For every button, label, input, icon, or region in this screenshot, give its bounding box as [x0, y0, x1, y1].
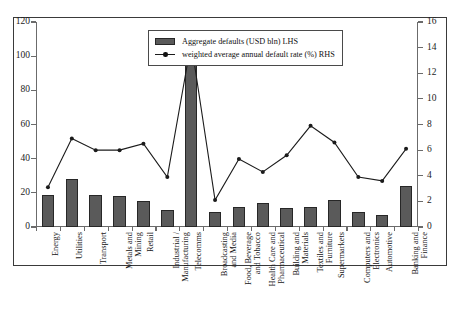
x-category-label: Supermarkets [337, 232, 346, 278]
line-marker [94, 148, 98, 152]
left-tick-label: 0 [6, 222, 30, 231]
x-category-label: Telecomms [194, 232, 203, 270]
x-category-label: Food, Beverageand Tobacco [244, 232, 262, 285]
right-tick [418, 201, 423, 202]
x-category-label: Retail [146, 232, 155, 252]
x-tick [418, 226, 419, 231]
right-tick [418, 175, 423, 176]
right-tick-label: 16 [427, 17, 437, 26]
right-tick [418, 150, 423, 151]
right-tick-label: 6 [427, 145, 432, 154]
legend-label-line: weighted average annual default rate (%)… [182, 50, 335, 59]
left-tick-label: 40 [6, 154, 30, 163]
line-marker [309, 124, 313, 128]
x-axis-category-labels: EnergyUtilitiesTransportMetals andMining… [36, 232, 418, 316]
line-marker [332, 140, 336, 144]
right-tick-label: 8 [427, 120, 432, 129]
x-category-label: Metals andMining [125, 232, 143, 269]
left-tick-label: 100 [6, 51, 30, 60]
x-category-label: Utilities [75, 232, 84, 259]
x-category-label: Broadcastingand Media [220, 232, 238, 276]
chart-figure: 020406080100120 0246810121416 EnergyUtil… [0, 0, 461, 318]
x-category-label: Energy [51, 232, 60, 256]
legend-item-line: weighted average annual default rate (%)… [155, 48, 335, 61]
x-category-label: Building andMaterials [292, 232, 310, 276]
line-marker [46, 185, 50, 189]
x-category-label: Automotive [385, 232, 394, 272]
x-category-label: Health Care andPharmaceutical [268, 232, 286, 286]
line-marker [380, 179, 384, 183]
right-tick [418, 98, 423, 99]
right-tick [418, 124, 423, 125]
line-marker [118, 148, 122, 152]
legend-label-bars: Aggregate defaults (USD bln) LHS [182, 37, 298, 46]
legend-bar-swatch [155, 38, 175, 45]
line-marker [356, 175, 360, 179]
right-tick [418, 73, 423, 74]
line-marker [404, 147, 408, 151]
line-marker [70, 137, 74, 141]
right-tick-label: 4 [427, 171, 432, 180]
right-tick-label: 10 [427, 94, 437, 103]
right-tick-label: 12 [427, 68, 437, 77]
line-marker [261, 170, 265, 174]
x-category-label: Textiles andFurniture [316, 232, 334, 273]
left-tick-label: 120 [6, 17, 30, 26]
right-tick-label: 2 [427, 196, 432, 205]
right-tick [418, 21, 423, 22]
right-tick-label: 0 [427, 222, 432, 231]
left-tick-label: 80 [6, 85, 30, 94]
x-category-label: Banking andFinance [411, 232, 429, 275]
left-tick-label: 20 [6, 188, 30, 197]
legend-item-bars: Aggregate defaults (USD bln) LHS [155, 35, 335, 48]
line-marker [141, 142, 145, 146]
line-marker [237, 157, 241, 161]
legend-line-swatch [155, 50, 175, 60]
line-marker [213, 198, 217, 202]
right-tick-label: 14 [427, 43, 437, 52]
x-category-label: Transport [99, 232, 108, 264]
right-tick [418, 47, 423, 48]
chart-legend: Aggregate defaults (USD bln) LHS weighte… [148, 30, 343, 66]
line-marker [165, 175, 169, 179]
x-category-label: Computers andElectronics [363, 232, 381, 283]
x-category-label: Industrial /Manufacturing [172, 232, 190, 282]
line-marker [285, 153, 289, 157]
left-tick-label: 60 [6, 120, 30, 129]
